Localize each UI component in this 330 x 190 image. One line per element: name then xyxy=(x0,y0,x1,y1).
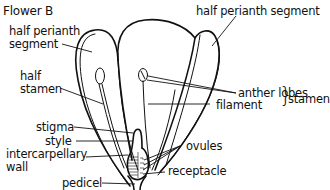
ovules-marks xyxy=(140,158,144,173)
label-intercarpellary-1: intercarpellary xyxy=(6,148,87,160)
leader-half-perianth-right xyxy=(212,16,236,46)
leader-pedicel xyxy=(102,183,135,184)
left-perianth-segment xyxy=(76,30,132,186)
label-half-perianth-right: half perianth segment xyxy=(196,5,320,17)
label-ovules: ovules xyxy=(186,140,222,152)
label-half-perianth-left-2: segment xyxy=(9,38,58,50)
leader-stigma xyxy=(74,127,133,133)
label-stamen: stamen xyxy=(288,93,330,105)
leader-anther-1 xyxy=(148,76,236,93)
label-pedicel: pedicel xyxy=(62,177,102,189)
label-receptacle: receptacle xyxy=(168,165,226,177)
label-stigma: stigma xyxy=(36,121,74,133)
leader-anther-2 xyxy=(147,80,236,93)
label-half-perianth-left-1: half perianth xyxy=(9,25,80,37)
label-intercarpellary-2: wall xyxy=(6,161,28,173)
left-anther xyxy=(96,68,105,84)
label-half-stamen-1: half xyxy=(20,70,41,82)
label-filament: filament xyxy=(216,99,262,111)
figure-title: Flower B xyxy=(3,5,53,17)
leader-half-stamen xyxy=(60,88,103,104)
label-style: style xyxy=(45,135,72,147)
label-half-stamen-2: stamen xyxy=(20,83,62,95)
